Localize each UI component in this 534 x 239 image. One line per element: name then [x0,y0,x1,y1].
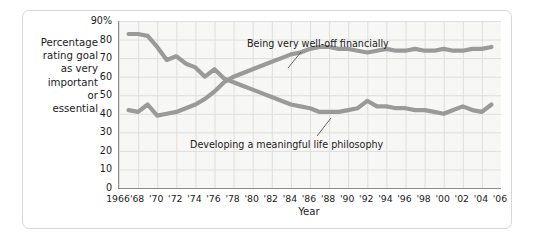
annotation-developing-a-meaningful-life-philosophy: Developing a meaningful life philosophy [190,139,383,150]
y-tick-label: 30 [82,126,112,137]
x-tick-label: '76 [206,193,220,204]
x-tick-label: '84 [283,193,297,204]
x-tick-label: '94 [378,193,392,204]
x-axis-title: Year [118,206,500,217]
x-tick-label: '78 [225,193,239,204]
annotation-leader-lines [288,52,331,136]
x-tick-label: '96 [397,193,411,204]
y-tick-label: 90% [82,15,112,26]
y-tick-label: 80 [82,34,112,45]
x-tick-label: '70 [149,193,163,204]
x-tick-label: '04 [474,193,488,204]
x-tick-label: '82 [264,193,278,204]
y-tick-label: 0 [82,182,112,193]
y-tick-label: 70 [82,52,112,63]
annotation-being-very-well-off-financially: Being very well-off financially [247,38,389,49]
x-tick-label: '88 [321,193,335,204]
x-tick-label: '86 [302,193,316,204]
x-tick-label: '06 [493,193,507,204]
x-tick-label: '80 [244,193,258,204]
y-tick-label: 50 [82,89,112,100]
x-tick-label: '00 [435,193,449,204]
x-tick-label: '92 [359,193,373,204]
x-tick-label: '98 [416,193,430,204]
chart-screenshot: Percentage rating goal as very important… [0,0,534,239]
x-tick-label: '72 [168,193,182,204]
y-tick-label: 40 [82,108,112,119]
x-tick-label: '90 [340,193,354,204]
y-tick-label: 10 [82,163,112,174]
x-tick-label: 1966 [106,193,130,204]
y-tick-label: 20 [82,145,112,156]
x-tick-label: '68 [130,193,144,204]
x-tick-label: '74 [187,193,201,204]
x-tick-label: '02 [455,193,469,204]
y-tick-label: 60 [82,71,112,82]
